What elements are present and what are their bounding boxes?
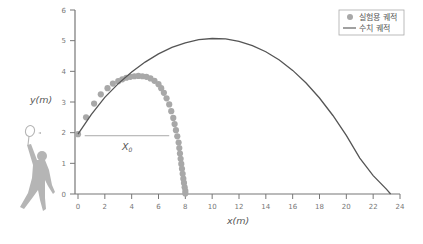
- y-tick-label: 0: [62, 191, 66, 199]
- x-tick-label: 10: [208, 203, 217, 211]
- y-tick-label: 3: [62, 99, 66, 107]
- x-tick-label: 20: [342, 203, 351, 211]
- experimental-trajectory-markers: [75, 73, 189, 197]
- data-point: [170, 115, 176, 121]
- x-tick-label: 22: [369, 203, 378, 211]
- y-tick-label: 4: [62, 68, 67, 76]
- numerical-trajectory-line: [78, 39, 391, 195]
- legend-item-numerical: 수치 궤적: [359, 23, 390, 33]
- data-point: [182, 190, 188, 196]
- data-point: [166, 101, 172, 107]
- data-point: [176, 145, 182, 151]
- data-point: [173, 127, 179, 133]
- legend-dot-icon: [347, 14, 353, 20]
- data-point: [110, 81, 116, 87]
- x-tick-label: 12: [235, 203, 244, 211]
- x-tick-label: 14: [261, 203, 270, 211]
- y-tick-label: 5: [62, 37, 66, 45]
- legend-item-experimental: 실험용 궤적: [359, 12, 397, 22]
- data-point: [163, 95, 169, 101]
- x-tick-label: 8: [183, 203, 187, 211]
- y-ticks: 0123456: [62, 7, 75, 199]
- x-tick-label: 24: [396, 203, 405, 211]
- x-axis-title: x(m): [226, 215, 249, 226]
- data-point: [177, 150, 183, 156]
- y-tick-label: 2: [62, 129, 66, 137]
- data-point: [174, 133, 180, 139]
- y-axis-title: y(m): [29, 94, 52, 105]
- x-tick-label: 16: [288, 203, 297, 211]
- x-tick-label: 4: [129, 203, 134, 211]
- x0-annotation-label: X0: [121, 141, 133, 153]
- data-point: [98, 91, 104, 97]
- data-point: [178, 156, 184, 162]
- x-tick-label: 0: [76, 203, 80, 211]
- trajectory-chart: 0123456 024681012141618202224 y(m) x(m) …: [0, 0, 423, 244]
- x-tick-label: 18: [315, 203, 324, 211]
- badminton-player-icon: [20, 125, 55, 211]
- y-tick-label: 6: [62, 7, 67, 15]
- legend: 실험용 궤적 수치 궤적: [339, 10, 404, 35]
- data-point: [176, 139, 182, 145]
- x-tick-label: 6: [156, 203, 161, 211]
- x-ticks: 024681012141618202224: [76, 194, 405, 211]
- data-point: [104, 85, 110, 91]
- data-point: [168, 108, 174, 114]
- data-point: [91, 100, 97, 106]
- data-point: [172, 121, 178, 127]
- x-tick-label: 2: [103, 203, 107, 211]
- y-tick-label: 1: [62, 160, 66, 168]
- data-point: [161, 90, 167, 96]
